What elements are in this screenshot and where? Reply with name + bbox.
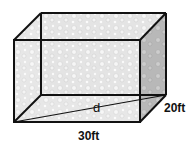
width-label: 20ft bbox=[164, 102, 185, 114]
prism-diagram bbox=[0, 0, 193, 148]
diagonal-label: d bbox=[93, 101, 100, 114]
length-label: 30ft bbox=[78, 130, 99, 142]
front-face bbox=[14, 40, 140, 122]
